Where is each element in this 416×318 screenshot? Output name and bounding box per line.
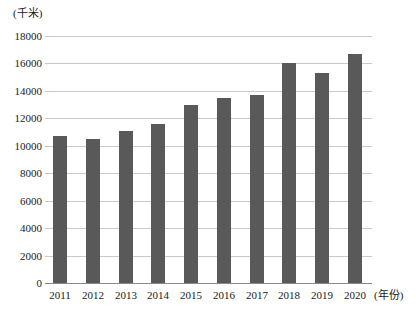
- axis-baseline: [45, 283, 372, 284]
- y-axis-unit-label: (千米): [13, 7, 42, 20]
- y-tick-label: 8000: [0, 168, 42, 179]
- y-tick-label: 10000: [0, 141, 42, 152]
- bar-chart: (千米) 02000400060008000100001200014000160…: [0, 0, 416, 318]
- bar: [217, 98, 231, 283]
- bar: [53, 136, 67, 283]
- bar: [315, 73, 329, 283]
- bar: [151, 124, 165, 283]
- y-tick-label: 2000: [0, 251, 42, 262]
- x-axis-unit-label: (年份): [374, 289, 403, 301]
- bar: [119, 131, 133, 283]
- y-tick-label: 14000: [0, 86, 42, 97]
- bar: [86, 139, 100, 283]
- bar: [184, 105, 198, 283]
- y-tick-label: 0: [0, 278, 42, 289]
- bar: [348, 54, 362, 283]
- bars: [45, 36, 372, 283]
- plot-area: [45, 36, 372, 283]
- y-tick-label: 18000: [0, 31, 42, 42]
- y-tick-label: 16000: [0, 58, 42, 69]
- bar: [250, 95, 264, 283]
- y-tick-label: 6000: [0, 196, 42, 207]
- y-tick-label: 12000: [0, 113, 42, 124]
- bar: [282, 63, 296, 283]
- y-tick-label: 4000: [0, 223, 42, 234]
